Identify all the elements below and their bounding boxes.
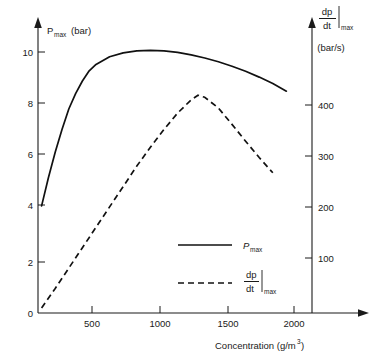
right-axis-denominator: dt <box>323 20 331 31</box>
left-axis-symbol: P <box>47 25 53 36</box>
right-axis-numerator: dp <box>322 6 333 17</box>
legend-label-pmax-subscript: max <box>250 246 263 253</box>
legend-label-pmax-symbol: P <box>243 240 250 251</box>
x-axis <box>38 309 369 317</box>
left-tick-label-10: 10 <box>22 47 33 58</box>
right-axis-arrowhead <box>308 17 316 28</box>
right-axis <box>308 17 316 313</box>
x-axis-title-close: ) <box>301 340 304 351</box>
x-axis-title: Concentration (g/m 3 ) <box>215 338 304 351</box>
left-axis-title: P max (bar) <box>47 25 91 38</box>
right-tick-label-200: 200 <box>318 202 334 213</box>
legend-label-dpdt-subscript: max <box>264 288 277 295</box>
left-axis-subscript: max <box>54 31 67 38</box>
left-tick-label-2: 2 <box>28 257 33 268</box>
left-axis-arrowhead <box>34 17 42 28</box>
x-axis-arrowhead <box>358 309 369 317</box>
x-axis-title-base: Concentration (g/m <box>215 340 296 351</box>
x-tick-label-1500: 1500 <box>217 318 238 329</box>
x-tick-label-1000: 1000 <box>149 318 170 329</box>
x-axis-ticks <box>92 306 294 313</box>
chart-legend: P max dp dt max <box>178 240 277 295</box>
right-axis-title: dp dt max (bar/s) <box>317 6 354 53</box>
left-tick-label-4: 4 <box>28 200 33 211</box>
legend-label-dpdt-numerator: dp <box>246 269 257 280</box>
legend-label-dpdt-denominator: dt <box>246 283 254 294</box>
x-tick-label-2000: 2000 <box>283 318 304 329</box>
x-axis-tick-labels: 500 1000 1500 2000 <box>84 318 305 329</box>
legend-entry-pmax: P max <box>178 240 263 253</box>
chart-svg: 10 8 6 4 2 0 400 300 200 100 500 <box>0 0 379 363</box>
right-axis-unit: (bar/s) <box>317 42 344 53</box>
chart-figure: 10 8 6 4 2 0 400 300 200 100 500 <box>0 0 379 363</box>
legend-entry-dpdt: dp dt max <box>178 269 277 295</box>
series-dpdt-curve <box>42 95 273 308</box>
right-axis-ticks <box>305 105 312 258</box>
left-axis <box>34 17 42 313</box>
left-tick-label-0: 0 <box>28 308 33 319</box>
left-axis-tick-labels: 10 8 6 4 2 0 <box>22 47 33 319</box>
right-axis-tick-labels: 400 300 200 100 <box>318 100 334 264</box>
left-tick-label-8: 8 <box>28 98 33 109</box>
right-tick-label-300: 300 <box>318 151 334 162</box>
series-pmax-curve <box>42 50 287 206</box>
right-tick-label-400: 400 <box>318 100 334 111</box>
left-tick-label-6: 6 <box>28 149 33 160</box>
left-axis-ticks <box>38 52 45 262</box>
right-tick-label-100: 100 <box>318 253 334 264</box>
x-tick-label-500: 500 <box>84 318 100 329</box>
right-axis-subscript: max <box>341 24 354 31</box>
left-axis-unit: (bar) <box>71 25 91 36</box>
